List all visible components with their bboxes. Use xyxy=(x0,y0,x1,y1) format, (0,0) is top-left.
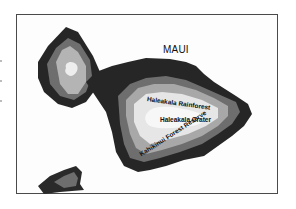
west-maui-island xyxy=(38,27,100,108)
map-title: MAUI xyxy=(163,44,189,55)
maui-map xyxy=(0,0,296,209)
east-maui-island xyxy=(86,58,252,172)
kahoolawe-island xyxy=(38,166,84,194)
